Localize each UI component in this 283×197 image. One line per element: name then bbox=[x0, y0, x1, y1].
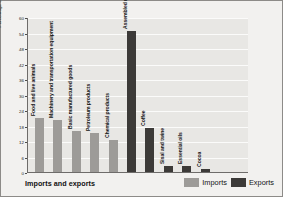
bar-category-label: Basic manufactured goods bbox=[67, 64, 73, 128]
plot-area: Food and live animalsMachinery and trans… bbox=[27, 18, 248, 173]
y-axis-tick-label: 60 bbox=[9, 16, 24, 21]
bar bbox=[35, 118, 44, 172]
y-axis-tick-label: 18 bbox=[9, 124, 24, 129]
y-axis-tick-label: 54 bbox=[9, 31, 24, 36]
bar bbox=[53, 120, 62, 172]
bar-category-label: Coffee bbox=[140, 111, 146, 127]
bar bbox=[72, 131, 81, 172]
y-axis-tick-label: 36 bbox=[9, 78, 24, 83]
y-axis-tick-label: 24 bbox=[9, 109, 24, 114]
bar bbox=[182, 166, 191, 172]
legend-label: Exports bbox=[249, 178, 274, 187]
bar bbox=[109, 140, 118, 172]
gridline bbox=[28, 49, 248, 50]
bar bbox=[127, 31, 136, 172]
y-axis-tick-label: 12 bbox=[9, 140, 24, 145]
gridline bbox=[28, 111, 248, 112]
chart-legend: ImportsExports bbox=[184, 178, 274, 187]
bar-category-label: Assembled manufactured goods for re-expo… bbox=[122, 0, 128, 29]
y-axis-tick-label: 48 bbox=[9, 47, 24, 52]
bar bbox=[90, 133, 99, 172]
gridline bbox=[28, 34, 248, 35]
bar-category-label: Petroleum products bbox=[85, 84, 91, 131]
y-axis-tick-label: 42 bbox=[9, 62, 24, 67]
bar-category-label: Sisal and twine bbox=[159, 127, 165, 163]
bar-category-label: Cocoa bbox=[196, 152, 202, 167]
y-axis-title: Percentage of total bbox=[0, 0, 2, 53]
bar-category-label: Chemical products bbox=[104, 93, 110, 138]
chart-figure: Percentage of total 06121824303642485460… bbox=[0, 0, 283, 197]
bar bbox=[164, 166, 173, 172]
legend-item: Imports bbox=[184, 178, 227, 187]
bar-category-label: Essential oils bbox=[177, 132, 183, 164]
gridline bbox=[28, 96, 248, 97]
gridline bbox=[28, 65, 248, 66]
legend-swatch bbox=[231, 178, 246, 187]
chart-footer: Imports and exports ImportsExports bbox=[1, 173, 282, 196]
bar bbox=[201, 169, 210, 172]
bar-category-label: Machinery and transportation equipment bbox=[48, 21, 54, 118]
y-axis-tick-label: 30 bbox=[9, 93, 24, 98]
gridline bbox=[28, 18, 248, 19]
bar-category-label: Food and live animals bbox=[30, 64, 36, 116]
legend-item: Exports bbox=[231, 178, 274, 187]
y-axis-tick-label: 6 bbox=[9, 155, 24, 160]
bar bbox=[145, 128, 154, 172]
legend-swatch bbox=[184, 178, 199, 187]
legend-label: Imports bbox=[202, 178, 227, 187]
chart-caption: Imports and exports bbox=[25, 179, 95, 188]
gridline bbox=[28, 80, 248, 81]
